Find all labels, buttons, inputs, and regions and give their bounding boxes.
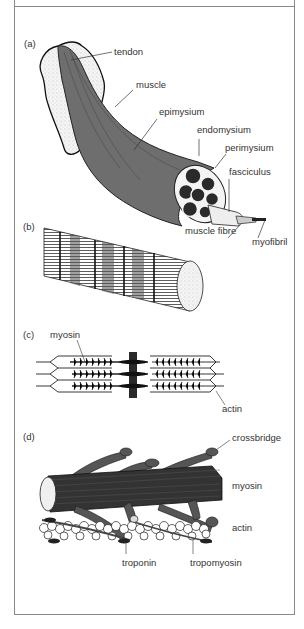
panel-a: (a) te — [24, 38, 287, 247]
label-muscle-fibre: muscle fibre — [185, 225, 236, 236]
panel-d: (d) — [23, 431, 281, 568]
label-actin-d: actin — [232, 522, 252, 533]
panel-d-label: (d) — [23, 431, 35, 442]
myofibril-shape — [252, 218, 266, 221]
panel-c: (c) myosin — [23, 329, 242, 414]
label-tendon: tendon — [114, 46, 143, 57]
label-actin-c: actin — [222, 403, 242, 414]
panel-a-label: (a) — [24, 38, 36, 49]
label-perimysium: perimysium — [225, 142, 274, 153]
panel-b: (b) — [23, 221, 203, 311]
panel-c-label: (c) — [23, 329, 34, 340]
label-endomysium: endomysium — [197, 124, 251, 135]
label-tropomyosin: tropomyosin — [190, 557, 242, 568]
muscle-structure-diagram: (a) te — [0, 0, 304, 629]
label-muscle: muscle — [136, 79, 166, 90]
label-myosin-c: myosin — [50, 329, 80, 340]
label-fasciculus: fasciculus — [229, 166, 271, 177]
panel-b-label: (b) — [23, 221, 35, 232]
label-crossbridge: crossbridge — [232, 432, 281, 443]
label-epimysium: epimysium — [159, 106, 204, 117]
myofibril-cylinder — [44, 228, 190, 311]
label-myosin-d: myosin — [232, 480, 262, 491]
label-troponin: troponin — [122, 557, 156, 568]
label-myofibril: myofibril — [252, 236, 287, 247]
